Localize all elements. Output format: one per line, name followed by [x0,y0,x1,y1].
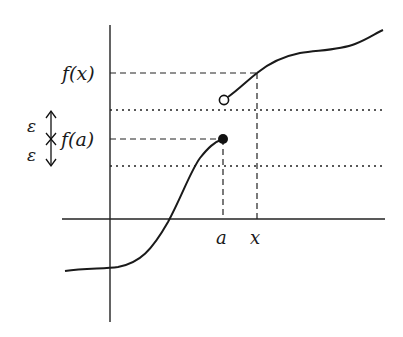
label-x: x [250,227,260,248]
label-epsilon-lower: ε [27,145,36,165]
filled-dot-fa [218,134,228,144]
open-circle-limit [219,95,228,104]
label-fx: f(x) [60,62,95,84]
label-fa: f(a) [59,128,94,150]
curve-right-branch [228,30,383,97]
diagram-canvas: f(x) f(a) ε ε a x [0,0,403,337]
label-epsilon-upper: ε [27,116,36,136]
curve-left-branch [65,139,223,271]
continuity-diagram: f(x) f(a) ε ε a x [0,0,403,337]
label-a: a [216,227,227,248]
epsilon-arrows-icon [46,111,56,166]
